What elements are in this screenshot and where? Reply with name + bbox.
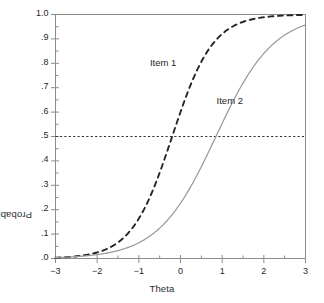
x-tick-label: 3 [294,266,318,276]
x-tick-label: 1 [210,266,234,276]
x-tick-label: 0 [169,266,193,276]
y-tick-label: .4 [19,154,49,164]
chart-figure: .0.1.2.3.4.5.6.7.8.91.0 −3−2−10123 Item … [0,0,324,303]
y-tick-label: 1.0 [19,8,49,18]
plot-background [0,0,324,303]
y-tick-label: .7 [19,81,49,91]
x-tick-label: −2 [85,266,109,276]
curve-label-item-1: Item 1 [150,57,176,68]
x-axis-title: Theta [0,283,324,294]
y-tick-label: .9 [19,32,49,42]
x-tick-label: 2 [252,266,276,276]
y-tick-label: .5 [19,130,49,140]
y-axis-title-text: Probability [0,209,32,220]
y-tick-label: .0 [19,252,49,262]
y-tick-label: .3 [19,179,49,189]
y-axis-title: Probability [3,209,15,221]
item-characteristic-curve-plot [0,0,324,303]
y-tick-label: .1 [19,228,49,238]
x-tick-label: −3 [44,266,68,276]
y-tick-label: .6 [19,106,49,116]
curve-label-item-2: Item 2 [217,95,243,106]
x-tick-label: −1 [127,266,151,276]
y-tick-label: .8 [19,57,49,67]
